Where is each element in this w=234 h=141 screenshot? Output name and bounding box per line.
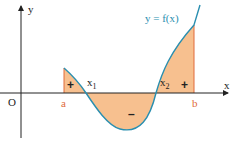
bound-label-a: a — [61, 97, 66, 109]
integral-diagram: y x O a b y = f(x) x1 x2 + – + — [0, 0, 234, 141]
y-axis-label: y — [28, 3, 34, 15]
origin-label: O — [8, 96, 16, 108]
function-label: y = f(x) — [145, 12, 179, 25]
bound-label-b: b — [192, 97, 198, 109]
sign-minus: – — [128, 107, 135, 121]
sign-plus-left: + — [67, 78, 74, 92]
sign-plus-right: + — [181, 78, 188, 92]
x-axis-label: x — [224, 79, 230, 91]
root-label-x1: x1 — [87, 76, 97, 91]
